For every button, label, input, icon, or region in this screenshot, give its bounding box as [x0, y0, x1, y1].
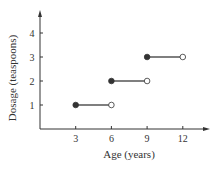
step-segment	[73, 102, 114, 108]
step-segment	[144, 54, 185, 60]
step-segments	[73, 54, 186, 108]
step-function-chart: 36912 1234 Age (years) Dosage (teaspoons…	[0, 0, 219, 170]
y-ticks: 1234	[30, 28, 44, 111]
y-tick-label: 2	[30, 76, 35, 87]
closed-endpoint	[73, 102, 79, 108]
closed-endpoint	[109, 78, 115, 84]
open-endpoint	[109, 102, 115, 108]
open-endpoint	[180, 54, 186, 60]
y-axis-label: Dosage (teaspoons)	[6, 34, 19, 121]
x-axis-label: Age (years)	[103, 148, 155, 161]
x-axis-arrow-icon	[203, 127, 210, 131]
x-tick-label: 12	[178, 133, 188, 144]
x-tick-label: 3	[73, 133, 78, 144]
open-endpoint	[144, 78, 150, 84]
step-segment	[109, 78, 150, 84]
y-tick-label: 4	[30, 28, 35, 39]
y-axis-arrow-icon	[38, 10, 42, 17]
x-tick-label: 6	[109, 133, 114, 144]
x-tick-label: 9	[145, 133, 150, 144]
y-tick-label: 3	[30, 52, 35, 63]
y-tick-label: 1	[30, 100, 35, 111]
closed-endpoint	[144, 54, 150, 60]
